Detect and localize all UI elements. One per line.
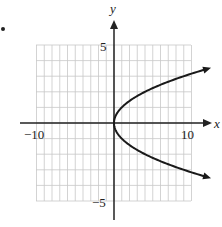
y-tick-neg5: −5 bbox=[92, 196, 106, 209]
y-axis-arrow-icon bbox=[110, 20, 118, 29]
axes bbox=[20, 20, 212, 220]
x-axis-arrow-icon bbox=[203, 119, 212, 127]
plot-area bbox=[0, 0, 222, 227]
x-axis-label: x bbox=[214, 117, 220, 130]
curve-arrow-bottom-icon bbox=[202, 173, 211, 180]
x-tick-10: 10 bbox=[181, 128, 194, 141]
x-tick-neg10: −10 bbox=[24, 128, 44, 141]
y-axis-label: y bbox=[110, 2, 116, 15]
y-tick-5: 5 bbox=[100, 40, 107, 53]
curve-arrow-top-icon bbox=[202, 67, 211, 74]
